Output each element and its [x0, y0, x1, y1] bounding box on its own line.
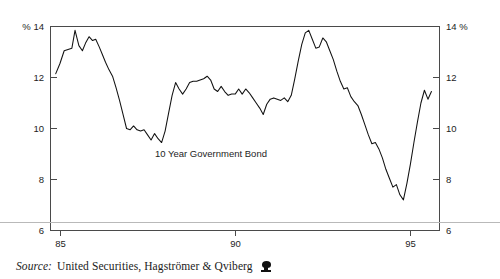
x-ticks	[61, 231, 411, 237]
chart-figure: % 14 12 10 8 6 14 % 12 10 8 6 85 90 95 1…	[0, 0, 500, 250]
y-axis-label-left-8: 8	[39, 174, 44, 185]
y-axis-label-right-10: 10	[446, 123, 457, 134]
y-axis-label-left-12: 12	[33, 72, 44, 83]
source-label: Source:	[16, 260, 52, 272]
y-axis-label-left-10: 10	[33, 123, 44, 134]
y-axis-label-right-12: 12	[446, 72, 457, 83]
y-axis-label-left-14: % 14	[22, 21, 44, 32]
y-ticks-left	[51, 78, 58, 180]
series-line-10-year-government-bond	[56, 30, 432, 200]
series-annotation: 10 Year Government Bond	[155, 148, 267, 159]
figure-page: % 14 12 10 8 6 14 % 12 10 8 6 85 90 95 1…	[0, 0, 500, 279]
publisher-logo-icon	[261, 260, 272, 272]
source-text: United Securities, Hagströmer & Qviberg	[57, 260, 253, 272]
y-axis-label-right-6: 6	[446, 225, 451, 236]
x-axis-label-95: 95	[405, 238, 416, 249]
x-axis-label-85: 85	[55, 238, 66, 249]
y-axis-label-right-8: 8	[446, 174, 451, 185]
plot-frame	[51, 27, 440, 231]
source-caption: Source: United Securities, Hagströmer & …	[16, 256, 486, 276]
x-axis-label-90: 90	[230, 238, 241, 249]
y-ticks-right	[433, 78, 440, 180]
line-chart-canvas: % 14 12 10 8 6 14 % 12 10 8 6 85 90 95 1…	[0, 0, 500, 250]
y-axis-label-right-14: 14 %	[446, 21, 468, 32]
y-axis-label-left-6: 6	[39, 225, 44, 236]
